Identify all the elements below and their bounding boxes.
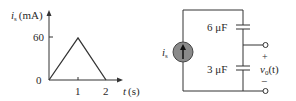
plus-sign: + — [262, 51, 268, 62]
y-axis-arrow-icon — [47, 10, 52, 16]
minus-sign: − — [261, 75, 267, 87]
x-tick-label-1: 1 — [75, 85, 81, 97]
cap-bottom-label: 3 μF — [207, 63, 227, 75]
x-axis-label: t(s) — [123, 85, 140, 98]
y-tick-label-60: 60 — [33, 31, 45, 43]
source-label: is — [162, 46, 168, 60]
cap-top-label: 6 μF — [207, 21, 227, 33]
terminal-bottom-icon — [263, 89, 268, 94]
waveform-line — [49, 38, 106, 80]
terminal-top-icon — [263, 43, 268, 48]
current-waveform-graph: is(mA) 60 0 1 2 t(s) — [11, 9, 140, 98]
y-axis-label: is(mA) — [11, 9, 43, 23]
x-tick-label-2: 2 — [103, 85, 109, 97]
x-axis-arrow-icon — [117, 78, 123, 83]
origin-label: 0 — [36, 74, 42, 86]
figure: is(mA) 60 0 1 2 t(s) is 6 μF 3 μF — [0, 0, 296, 101]
